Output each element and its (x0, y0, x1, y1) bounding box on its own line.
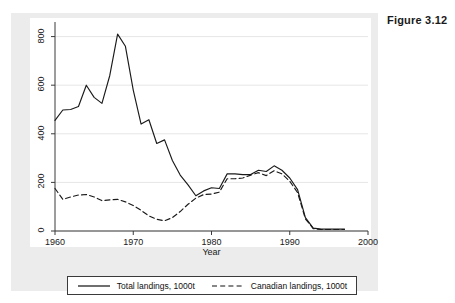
legend-swatch-solid (77, 282, 111, 290)
chart-plot-area (30, 18, 371, 247)
x-tick-label: 2000 (351, 237, 385, 247)
figure-number-label: Figure 3.12 (387, 14, 447, 26)
plot-canvas: 0200400600800 (30, 18, 371, 247)
legend-entry-total-landings: Total landings, 1000t (77, 281, 195, 291)
gridlines (55, 37, 368, 231)
y-axis-ticks (51, 37, 55, 231)
legend-label-total-landings: Total landings, 1000t (117, 281, 195, 291)
x-tick-label: 1990 (273, 237, 307, 247)
figure-panel: 0200400600800 19601970198019902000 Year … (11, 13, 378, 291)
x-axis-title: Year (182, 247, 242, 257)
legend-swatch-dashed (211, 282, 245, 290)
legend-label-canadian-landings: Canadian landings, 1000t (251, 281, 347, 291)
series-line-canadian-landings (55, 171, 345, 230)
chart-legend: Total landings, 1000t Canadian landings,… (67, 276, 357, 295)
page-root: 0200400600800 19601970198019902000 Year … (0, 0, 455, 303)
x-tick-label: 1960 (38, 237, 72, 247)
y-tick-label: 800 (36, 23, 46, 49)
x-tick-label: 1970 (116, 237, 150, 247)
y-tick-label: 200 (36, 168, 46, 194)
x-tick-label: 1980 (195, 237, 229, 247)
y-tick-label: 600 (36, 71, 46, 97)
y-tick-label: 400 (36, 120, 46, 146)
series-line-total-landings (55, 34, 345, 229)
legend-entry-canadian-landings: Canadian landings, 1000t (211, 281, 347, 291)
x-axis-ticks (55, 231, 368, 235)
